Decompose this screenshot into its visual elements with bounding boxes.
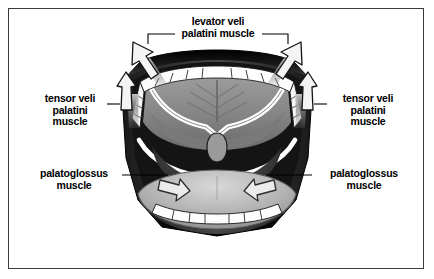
label-tensor-veli-palatini-left: tensor veli palatini muscle [18,93,122,128]
anatomy-illustration [0,0,434,279]
label-tensor-veli-palatini-right: tensor veli palatini muscle [316,93,420,128]
uvula [207,133,227,162]
label-palatoglossus-right: palatoglossus muscle [300,168,428,191]
figure-canvas: levator veli palatini muscle tensor veli… [0,0,434,279]
label-levator-veli-palatini: levator veli palatini muscle [148,16,288,39]
label-palatoglossus-left: palatoglossus muscle [12,168,136,191]
